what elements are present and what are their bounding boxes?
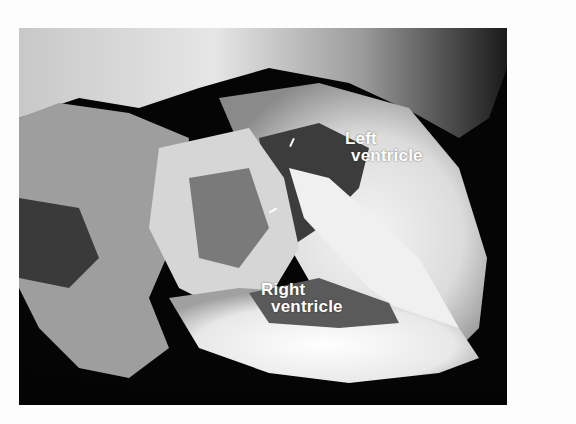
right-ventricle-label-line1: Right bbox=[257, 281, 357, 298]
specimen-illustration bbox=[19, 28, 507, 405]
left-ventricle-label-line1: Left bbox=[337, 130, 417, 147]
left-ventricle-label: Left ventricle bbox=[337, 130, 417, 164]
right-ventricle-label-line2: ventricle bbox=[257, 298, 357, 315]
heart-photograph: Left ventricle Right ventricle bbox=[19, 28, 507, 405]
left-ventricle-label-line2: ventricle bbox=[337, 147, 417, 164]
right-ventricle-label: Right ventricle bbox=[257, 281, 357, 315]
